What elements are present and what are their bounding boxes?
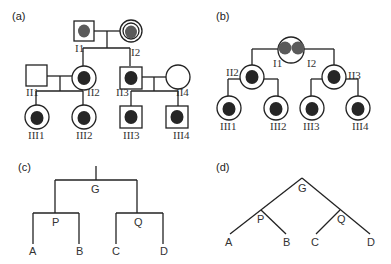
panel-b-label: (b) [216, 10, 229, 22]
affected-marker-icon [270, 102, 283, 116]
affected-marker-icon [125, 110, 138, 124]
node-d-P: P [257, 213, 264, 225]
affected-marker-icon [328, 70, 341, 84]
panel-d-label: (d) [216, 161, 229, 173]
label-a-II2: II2 [87, 86, 100, 98]
affected-marker-icon [78, 111, 91, 125]
node-c-Q: Q [134, 216, 143, 228]
label-b-II2: II2 [226, 66, 239, 78]
pedigree-figure: (a) I1 I2 II1 II2 II3 II4 [0, 0, 391, 264]
panel-b: (b) I1 I2 II2 II3 III1 III2 III3 [216, 10, 370, 132]
node-c-G: G [91, 183, 100, 195]
tree-branch [302, 178, 370, 234]
node-c-A: A [29, 245, 37, 257]
tree-branch [230, 178, 302, 234]
node-d-B: B [283, 236, 290, 248]
node-d-Q: Q [337, 213, 346, 225]
label-b-I2: I2 [307, 57, 316, 69]
affected-marker-icon [125, 26, 137, 39]
panel-a-label: (a) [12, 10, 25, 22]
tree-branch [261, 210, 286, 234]
label-a-II1: II1 [26, 86, 39, 98]
label-a-III4: III4 [173, 129, 190, 141]
node-c-P: P [52, 216, 59, 228]
panel-a: (a) I1 I2 II1 II2 II3 II4 [12, 10, 190, 141]
affected-marker-icon [352, 102, 365, 116]
affected-marker-icon [78, 25, 90, 38]
individual-a-II1 [26, 65, 47, 86]
affected-marker-icon [306, 102, 319, 116]
affected-marker-icon [125, 71, 138, 85]
panel-c: (c) G P Q A B C D [18, 161, 168, 257]
label-a-I2: I2 [131, 46, 140, 58]
label-b-III3: III3 [303, 120, 320, 132]
node-d-C: C [311, 236, 319, 248]
label-a-II3: II3 [116, 86, 129, 98]
node-c-D: D [160, 245, 168, 257]
node-c-C: C [112, 245, 120, 257]
affected-marker-icon [31, 111, 44, 125]
label-a-III2: III2 [76, 129, 93, 141]
affected-marker-icon [292, 42, 305, 55]
label-a-III3: III3 [123, 129, 140, 141]
affected-marker-icon [246, 70, 259, 84]
node-c-B: B [76, 245, 83, 257]
label-b-III2: III2 [270, 120, 287, 132]
panel-c-label: (c) [18, 161, 31, 173]
node-d-G: G [298, 182, 307, 194]
affected-marker-icon [171, 110, 184, 124]
affected-marker-icon [78, 71, 91, 85]
affected-marker-icon [223, 102, 236, 116]
label-b-III4: III4 [352, 120, 369, 132]
label-a-III1: III1 [28, 129, 45, 141]
node-d-D: D [367, 236, 375, 248]
label-b-III1: III1 [220, 120, 237, 132]
label-b-I1: I1 [273, 57, 282, 69]
panel-d: (d) G P Q A B C D [216, 161, 375, 248]
node-d-A: A [225, 236, 233, 248]
affected-marker-icon [279, 42, 292, 55]
